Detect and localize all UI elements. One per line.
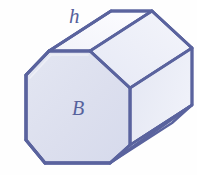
label-height-h: h: [69, 6, 80, 27]
prism-drawing: [0, 0, 197, 175]
label-base-area-B: B: [72, 98, 85, 118]
solid-body-group: [26, 11, 192, 163]
prism-figure: h B: [0, 0, 197, 175]
